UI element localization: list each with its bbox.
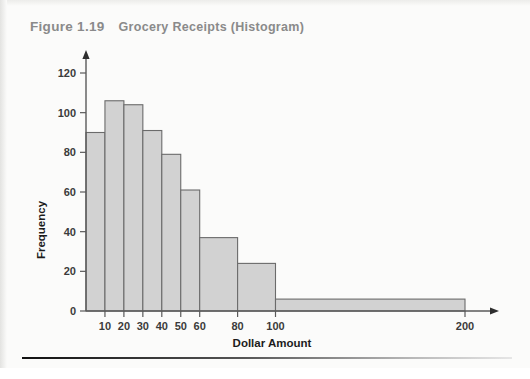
histogram-bar [124,105,143,311]
page-edge-bottom [0,368,530,379]
x-tick-label: 60 [194,320,206,332]
x-axis-arrow [490,307,499,314]
histogram-bar [162,154,181,311]
histogram-svg: 020406080100120 10203040506080100200 Fre… [0,0,530,379]
x-tick-label: 40 [156,320,168,332]
y-tick-label: 60 [64,186,76,198]
histogram-bar [86,133,105,312]
bars-group [86,101,465,311]
y-tick-label: 20 [64,265,76,277]
histogram-bar [238,263,276,311]
x-axis-ticks: 10203040506080100200 [99,311,474,332]
y-axis-ticks: 020406080100120 [58,67,86,317]
y-axis-title: Frequency [35,200,47,259]
x-tick-label: 80 [231,320,243,332]
y-axis-arrow [82,50,89,59]
y-tick-label: 0 [70,305,76,317]
y-tick-label: 100 [58,107,76,119]
figure-page: Figure 1.19Grocery Receipts (Histogram) … [0,0,530,379]
x-tick-label: 20 [118,320,130,332]
histogram-chart: 020406080100120 10203040506080100200 Fre… [0,0,530,379]
histogram-bar [276,299,466,311]
histogram-bar [200,238,238,311]
x-tick-label: 100 [266,320,284,332]
histogram-bar [105,101,124,311]
x-axis-title: Dollar Amount [233,337,312,349]
histogram-bar [181,190,200,311]
histogram-bar [143,131,162,311]
x-tick-label: 10 [99,320,111,332]
x-tick-label: 50 [175,320,187,332]
y-tick-label: 120 [58,67,76,79]
x-tick-label: 200 [456,320,474,332]
bottom-divider-rule [22,357,512,359]
y-tick-label: 80 [64,146,76,158]
y-tick-label: 40 [64,226,76,238]
x-tick-label: 30 [137,320,149,332]
